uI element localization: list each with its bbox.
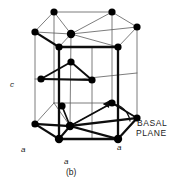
atom-mid-left	[37, 75, 44, 82]
top-spoke-6	[35, 32, 71, 34]
mid-bond-apex-to-right	[71, 62, 92, 80]
figure-caption: (b)	[66, 168, 76, 178]
mid-plane-bonds	[41, 62, 92, 80]
bottom-bold-spoke-far-left	[35, 124, 70, 126]
atom-top-corner-4	[114, 43, 121, 50]
atom-bottom-corner-5	[55, 135, 63, 143]
hcp-crystal-structure-figure: c a a a BASAL PLANE (b)	[0, 0, 175, 184]
axis-label-a-right: a	[117, 144, 121, 153]
mid-bond-left-to-right	[41, 79, 92, 80]
atom-top-center	[67, 30, 75, 38]
hcp-lattice-drawing	[0, 0, 175, 184]
atom-top-corner-2	[108, 8, 115, 15]
atom-top-corner-5	[55, 43, 62, 50]
unit-cell-prism-bold	[35, 32, 137, 139]
mid-bond-apex-to-left	[41, 62, 71, 79]
top-spoke-3	[71, 27, 137, 34]
atom-top-corner-3	[133, 23, 140, 30]
atom-top-corner-6	[31, 28, 38, 35]
bottom-bold-spoke-right	[70, 126, 118, 139]
atom-bottom-corner-4	[114, 135, 122, 143]
prism-top-left-edge	[35, 32, 59, 47]
atom-top-corner-1	[50, 8, 57, 15]
atom-bottom-center	[66, 122, 74, 130]
bottom-bold-spoke-far-right	[70, 118, 137, 126]
atom-bottom-corner-6	[31, 120, 38, 127]
axis-label-a-bottom: a	[64, 158, 68, 167]
top-spoke-4	[71, 34, 118, 47]
axis-label-c: c	[10, 81, 14, 90]
axis-label-a-left: a	[21, 146, 25, 155]
bottom-edge-back-left	[35, 103, 54, 124]
atom-bottom-corner-1	[58, 102, 65, 109]
prism-bottom-right-edge	[118, 118, 137, 139]
atom-mid-right	[88, 76, 95, 83]
atom-bottom-corner-2	[108, 99, 115, 106]
basal-plane-label-line2: PLANE	[136, 129, 167, 139]
atom-mid-apex	[67, 58, 74, 65]
basal-plane-arrow	[103, 100, 130, 121]
